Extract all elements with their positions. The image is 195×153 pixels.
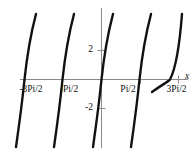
- tangent-branch-1: [16, 14, 36, 147]
- x-tick-label-3pi-over-2: 3Pi/2: [158, 85, 195, 95]
- plot-canvas: [0, 0, 195, 153]
- x-tick-label-neg-3pi-over-2: -3Pi/2: [9, 85, 53, 95]
- x-axis-label: x: [185, 72, 189, 82]
- tangent-branch-3: [93, 14, 113, 147]
- x-tick-label-neg-pi-over-2: -Pi/2: [51, 85, 87, 95]
- y-tick-label-negative-2: -2: [74, 103, 93, 113]
- tangent-branch-2: [54, 14, 74, 147]
- y-tick-label-positive-2: 2: [77, 45, 93, 55]
- x-tick-label-pi-over-2: Pi/2: [113, 85, 143, 95]
- tangent-branch-5: [152, 14, 182, 92]
- tangent-graph-figure: -3Pi/2 -Pi/2 Pi/2 3Pi/2 2 -2 x: [0, 0, 195, 153]
